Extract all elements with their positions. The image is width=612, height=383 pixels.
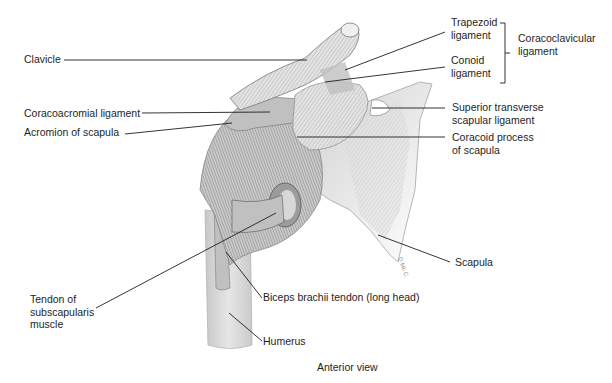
label-trapezoid-line2: ligament	[451, 29, 497, 42]
artist-signature: D.Mc.C.	[397, 256, 410, 279]
label-coracoid-line2: of scapula	[452, 144, 534, 157]
label-superior-transverse-scapular-ligament: Superior transverse scapular ligament	[452, 101, 544, 126]
label-clavicle: Clavicle	[24, 53, 61, 66]
label-coracoid-process: Coracoid process of scapula	[452, 131, 534, 156]
label-trapezoid-line1: Trapezoid	[451, 16, 497, 29]
label-subscapularis-line1: Tendon of	[30, 293, 94, 306]
label-subscapularis-tendon: Tendon of subscapularis muscle	[30, 293, 94, 331]
shoulder-joint-figure: D.Mc.C. Clavicle Trapezoid ligament Cono…	[0, 0, 612, 383]
label-subscapularis-line2: subscapularis	[30, 306, 94, 319]
label-superior-transverse-line1: Superior transverse	[452, 101, 544, 114]
label-coracoclavicular-line1: Coracoclavicular	[518, 32, 596, 45]
label-conoid-line2: ligament	[451, 67, 491, 80]
label-acromion: Acromion of scapula	[24, 126, 119, 139]
label-coracoclavicular-line2: ligament	[518, 45, 596, 58]
label-conoid-ligament: Conoid ligament	[451, 54, 491, 79]
leader-acromion	[125, 123, 232, 134]
label-superior-transverse-line2: scapular ligament	[452, 114, 544, 127]
label-coracoacromial-ligament: Coracoacromial ligament	[24, 107, 140, 120]
figure-caption: Anterior view	[317, 361, 378, 373]
label-humerus: Humerus	[263, 335, 306, 348]
coracoclavicular-bracket	[500, 23, 505, 83]
label-biceps-brachii-tendon: Biceps brachii tendon (long head)	[263, 291, 419, 304]
label-trapezoid-ligament: Trapezoid ligament	[451, 16, 497, 41]
label-coracoid-line1: Coracoid process	[452, 131, 534, 144]
label-subscapularis-line3: muscle	[30, 318, 94, 331]
label-scapula: Scapula	[455, 256, 493, 269]
leader-trapezoid	[345, 32, 445, 70]
label-conoid-line1: Conoid	[451, 54, 491, 67]
label-coracoclavicular-ligament: Coracoclavicular ligament	[518, 32, 596, 57]
